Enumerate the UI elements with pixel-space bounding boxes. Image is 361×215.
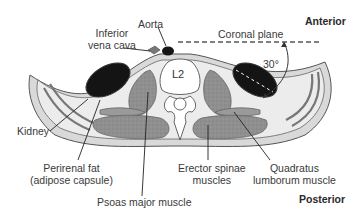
quadratus-lumborum-label: Quadratus lumborum muscle — [253, 162, 336, 186]
arrow-head-top — [281, 42, 287, 47]
perirenal-fat-label: Perirenal fat (adipose capsule) — [30, 162, 113, 186]
posterior-label: Posterior — [299, 193, 345, 205]
aorta-shape — [162, 47, 174, 56]
angle-label: 30° — [263, 58, 279, 70]
coronal-plane-label: Coronal plane — [218, 28, 283, 40]
psoas-label: Psoas major muscle — [97, 196, 192, 208]
ivc-shape — [148, 46, 160, 54]
ivc-label: Inferior vena cava — [88, 27, 136, 51]
aorta-label: Aorta — [138, 18, 163, 30]
erector-spinae-label: Erector spinae muscles — [178, 162, 246, 186]
kidney-label: Kidney — [17, 125, 49, 137]
anterior-label: Anterior — [305, 15, 346, 27]
vertebra-label: L2 — [172, 68, 184, 80]
